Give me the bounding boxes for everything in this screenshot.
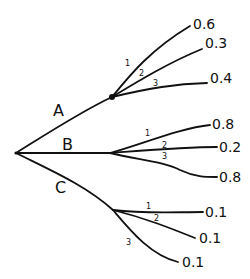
probability-label: 0.1 xyxy=(205,204,227,220)
outcome-index-label: 2 xyxy=(162,141,167,150)
branch-label-a: A xyxy=(53,101,64,120)
probability-label: 0.1 xyxy=(182,254,204,270)
outcome-index-label: 1 xyxy=(145,129,150,138)
outcome-index-label: 3 xyxy=(162,152,167,161)
outcome-index-label: 3 xyxy=(126,238,131,247)
probability-label: 0.8 xyxy=(219,169,241,185)
outcome-index-label: 2 xyxy=(139,69,144,78)
outcome-index-label: 2 xyxy=(154,214,159,223)
probability-label: 0.3 xyxy=(205,35,227,51)
branch-label-b: B xyxy=(62,135,73,154)
probability-label: 0.1 xyxy=(199,230,221,246)
leaf-edge-a1 xyxy=(112,26,190,97)
probability-label: 0.2 xyxy=(219,139,241,155)
outcome-index-label: 3 xyxy=(153,79,158,88)
probability-label: 0.6 xyxy=(193,16,215,32)
probability-label: 0.8 xyxy=(212,116,234,132)
outcome-index-label: 1 xyxy=(146,202,151,211)
branch-label-c: C xyxy=(55,178,66,197)
leaf-edge-a3 xyxy=(112,83,207,97)
leaf-edge-c1 xyxy=(113,210,203,213)
outcome-index-label: 1 xyxy=(125,59,130,68)
leaf-edge-c3 xyxy=(113,210,178,262)
leaf-edge-a2 xyxy=(112,49,202,97)
probability-label: 0.4 xyxy=(210,70,232,86)
probability-tree-diagram: A10.620.330.4B10.820.230.8C10.120.130.1 xyxy=(0,0,250,279)
